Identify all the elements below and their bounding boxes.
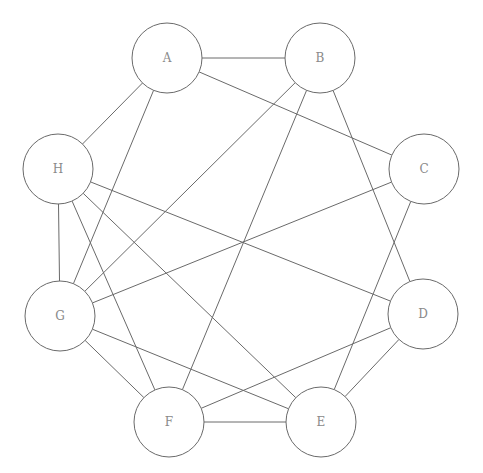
node-c: C — [389, 134, 459, 204]
node-label: F — [165, 415, 173, 429]
edge-d-e — [345, 339, 399, 396]
node-b: B — [285, 23, 355, 93]
node-label: D — [418, 307, 428, 321]
node-h: H — [23, 134, 93, 204]
edges-layer — [59, 58, 411, 422]
edge-a-c — [199, 72, 392, 155]
edge-b-f — [182, 90, 306, 389]
node-a: A — [132, 23, 202, 93]
edge-d-f — [201, 328, 391, 409]
node-f: F — [134, 387, 204, 457]
node-label: B — [316, 51, 325, 65]
edge-h-e — [83, 193, 296, 397]
edge-b-g — [85, 83, 295, 292]
graph-diagram: ABCDEFGH — [0, 0, 483, 473]
node-d: D — [388, 279, 458, 349]
edge-a-h — [83, 83, 143, 144]
edge-g-f — [85, 340, 144, 397]
node-g: G — [25, 281, 95, 351]
node-label: A — [162, 51, 172, 65]
node-label: E — [317, 415, 326, 429]
node-label: H — [53, 162, 63, 176]
node-label: C — [419, 162, 428, 176]
edge-h-g — [59, 204, 60, 281]
node-e: E — [286, 387, 356, 457]
node-label: G — [55, 309, 65, 323]
